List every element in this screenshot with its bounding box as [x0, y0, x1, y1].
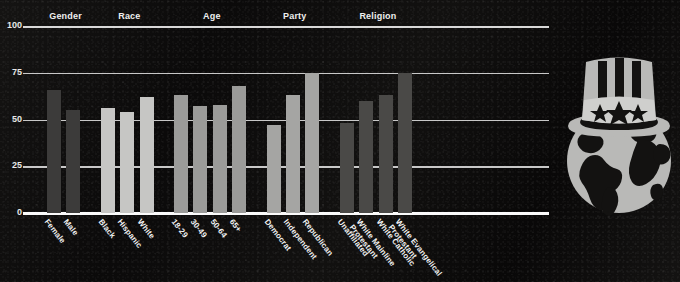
- x-axis-label-18-29: 18-29: [169, 218, 189, 240]
- group-header-age: Age: [203, 11, 221, 21]
- y-axis-tick-100: 100: [0, 20, 22, 30]
- x-axis-label-30-49: 30-49: [189, 218, 209, 240]
- bar-hispanic[interactable]: [120, 112, 134, 213]
- bar-white-evangelical-protestant[interactable]: [398, 73, 412, 213]
- bar-unaffiliated[interactable]: [340, 123, 354, 213]
- group-header-gender: Gender: [49, 11, 82, 21]
- bar-female[interactable]: [47, 90, 61, 213]
- group-header-religion: Religion: [359, 11, 396, 21]
- bar-democrat[interactable]: [267, 125, 281, 213]
- bar-white-catholic[interactable]: [379, 95, 393, 213]
- bar-republican[interactable]: [305, 73, 319, 213]
- bar-independent[interactable]: [286, 95, 300, 213]
- bar-30-49[interactable]: [193, 106, 207, 213]
- y-axis-tick-25: 25: [0, 160, 22, 170]
- gridline-75: [23, 73, 549, 75]
- bar-white[interactable]: [140, 97, 154, 213]
- bar-65-[interactable]: [232, 86, 246, 213]
- x-axis-label-65-: 65+: [227, 218, 242, 234]
- bar-50-64[interactable]: [213, 105, 227, 213]
- bar-male[interactable]: [66, 110, 80, 213]
- group-header-party: Party: [283, 11, 307, 21]
- x-axis-label-male: Male: [62, 218, 80, 238]
- y-axis-tick-0: 0: [0, 207, 22, 217]
- group-header-race: Race: [118, 11, 140, 21]
- gridline-100: [23, 26, 549, 28]
- x-axis-label-black: Black: [96, 218, 116, 240]
- bar-white-mainline-protestant[interactable]: [359, 101, 373, 213]
- y-axis-tick-75: 75: [0, 67, 22, 77]
- bar-black[interactable]: [101, 108, 115, 213]
- y-axis-tick-50: 50: [0, 114, 22, 124]
- bar-18-29[interactable]: [174, 95, 188, 213]
- uncle-sam-globe-logo: [560, 48, 678, 220]
- hat-stripes: [598, 58, 641, 101]
- x-axis-label-50-64: 50-64: [208, 218, 228, 240]
